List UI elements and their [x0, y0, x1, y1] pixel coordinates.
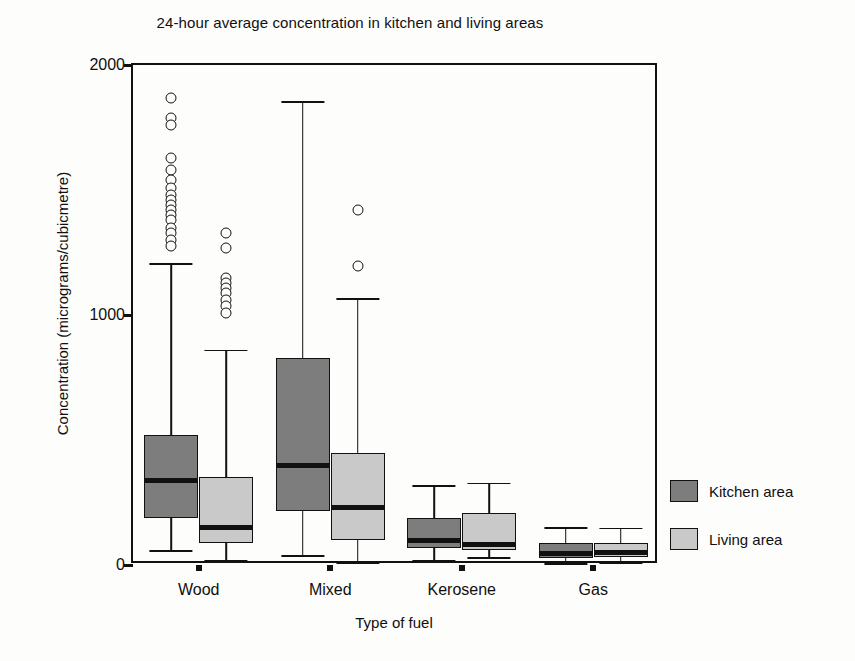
outlier-point [352, 205, 363, 216]
whisker-lower-line [225, 543, 227, 560]
whisker-lower-line [170, 518, 172, 550]
outlier-point [166, 120, 177, 131]
median-line [199, 525, 253, 530]
whisker-upper-cap [413, 485, 456, 487]
legend: Kitchen areaLiving area [670, 478, 850, 574]
chart-title: 24-hour average concentration in kitchen… [0, 14, 700, 31]
outlier-point [166, 92, 177, 103]
chart-page: 24-hour average concentration in kitchen… [0, 0, 855, 661]
whisker-upper-cap [150, 263, 193, 265]
whisker-lower-line [302, 511, 304, 555]
whisker-lower-cap [150, 550, 193, 552]
whisker-upper-line [302, 101, 304, 357]
x-tick-mark-wood [196, 565, 202, 571]
whisker-lower-line [357, 540, 359, 563]
whisker-upper-line [620, 528, 622, 543]
whisker-upper-cap [336, 298, 379, 300]
legend-item-kitchen: Kitchen area [670, 478, 850, 504]
whisker-upper-cap [205, 350, 248, 352]
outlier-point [352, 261, 363, 272]
y-tick-label: 0 [116, 556, 125, 574]
median-line [276, 463, 330, 468]
median-line [462, 542, 516, 547]
whisker-upper-cap [544, 527, 587, 529]
median-line [594, 550, 648, 555]
whisker-upper-line [488, 483, 490, 513]
outlier-point [166, 241, 177, 252]
box-iqr [407, 518, 461, 548]
whisker-upper-line [565, 527, 567, 543]
x-tick-label-mixed: Mixed [309, 581, 352, 599]
whisker-upper-cap [468, 483, 511, 485]
outlier-point [166, 152, 177, 163]
x-tick-label-wood: Wood [178, 581, 220, 599]
x-tick-label-gas: Gas [579, 581, 608, 599]
box-iqr [276, 358, 330, 512]
y-tick-mark [124, 564, 133, 567]
median-line [144, 478, 198, 483]
legend-item-living: Living area [670, 526, 850, 552]
whisker-upper-line [170, 263, 172, 435]
whisker-upper-line [357, 298, 359, 453]
legend-label-kitchen: Kitchen area [709, 483, 793, 500]
x-axis-title: Type of fuel [131, 614, 657, 631]
y-axis-title: Concentration (micrograms/cubicmetre) [54, 114, 71, 494]
x-tick-mark-gas [590, 565, 596, 571]
median-line [539, 551, 593, 556]
whisker-lower-cap [599, 563, 642, 565]
whisker-upper-line [433, 485, 435, 518]
legend-swatch-living [670, 528, 698, 550]
outlier-point [221, 307, 232, 318]
whisker-upper-line [225, 350, 227, 478]
median-line [407, 538, 461, 543]
plot-render-layer: 010002000WoodMixedKeroseneGas [133, 65, 659, 565]
box-iqr [199, 477, 253, 543]
x-tick-label-kerosene: Kerosene [428, 581, 497, 599]
whisker-lower-line [488, 550, 490, 558]
whisker-lower-cap [205, 560, 248, 562]
whisker-lower-cap [281, 555, 324, 557]
box-iqr [331, 453, 385, 540]
whisker-upper-cap [599, 528, 642, 530]
whisker-lower-cap [544, 563, 587, 565]
median-line [331, 505, 385, 510]
legend-swatch-kitchen [670, 480, 698, 502]
y-tick-label: 1000 [89, 306, 125, 324]
outlier-point [221, 242, 232, 253]
box-iqr [144, 435, 198, 518]
plot-area: 010002000WoodMixedKeroseneGas [131, 63, 657, 563]
x-tick-mark-mixed [327, 565, 333, 571]
y-tick-label: 2000 [89, 56, 125, 74]
whisker-upper-cap [281, 101, 324, 103]
x-tick-mark-kerosene [459, 565, 465, 571]
legend-label-living: Living area [709, 531, 782, 548]
whisker-lower-line [433, 548, 435, 561]
whisker-lower-cap [413, 560, 456, 562]
outlier-point [221, 227, 232, 238]
whisker-lower-cap [336, 563, 379, 565]
whisker-lower-cap [468, 557, 511, 559]
